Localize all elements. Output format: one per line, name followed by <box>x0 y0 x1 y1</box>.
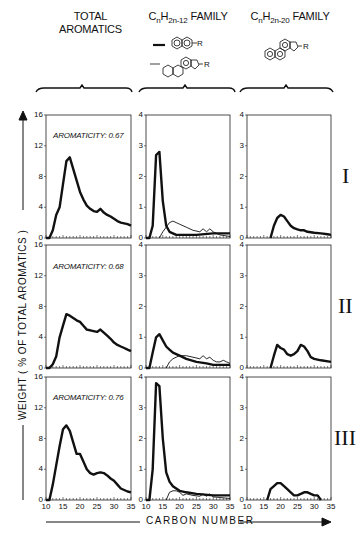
y-tick-label: 16 <box>33 372 43 381</box>
row-label-i: I <box>342 163 349 189</box>
x-tick-label: 30 <box>307 502 321 511</box>
y-tick-label: 3 <box>234 141 244 150</box>
y-tick-label: 2 <box>234 172 244 181</box>
y-tick-label: 2 <box>234 434 244 443</box>
y-tick-label: 2 <box>133 172 143 181</box>
x-tick-label: 25 <box>189 502 203 511</box>
series-line <box>46 157 131 238</box>
series-line <box>146 383 230 500</box>
x-tick-label: 20 <box>274 502 288 511</box>
y-tick-label: 8 <box>33 172 43 181</box>
y-tick-label: 4 <box>234 110 244 119</box>
x-tick-label: 15 <box>257 502 271 511</box>
y-tick-label: 3 <box>234 271 244 280</box>
x-tick-label: 10 <box>39 502 53 511</box>
y-tick-label: 2 <box>234 302 244 311</box>
y-tick-label: 16 <box>33 110 43 119</box>
series-line <box>146 334 230 368</box>
y-tick-label: 2 <box>133 302 143 311</box>
column-braces <box>36 85 333 92</box>
x-tick-label: 20 <box>173 502 187 511</box>
svg-text:R: R <box>303 42 309 51</box>
y-tick-label: 4 <box>234 372 244 381</box>
y-tick-label: 0 <box>133 363 143 372</box>
panel-iii-col3 <box>245 377 331 500</box>
y-tick-label: 4 <box>33 332 43 341</box>
y-tick-label: 1 <box>234 202 244 211</box>
series-line <box>46 425 131 500</box>
y-tick-label: 8 <box>33 302 43 311</box>
y-tick-label: 4 <box>234 240 244 249</box>
row-label-ii: II <box>338 293 353 319</box>
y-tick-label: 0 <box>234 363 244 372</box>
y-tick-label: 4 <box>133 240 143 249</box>
y-tick-label: 12 <box>33 141 43 150</box>
y-tick-label: 4 <box>133 372 143 381</box>
svg-text:R: R <box>197 39 203 48</box>
x-tick-label: 15 <box>156 502 170 511</box>
cyclopenta-phenanthrene-structure-icon: R <box>265 39 309 60</box>
y-tick-label: 1 <box>234 332 244 341</box>
y-tick-label: 1 <box>234 464 244 473</box>
y-tick-label: 1 <box>133 464 143 473</box>
x-tick-label: 30 <box>206 502 220 511</box>
x-tick-label: 25 <box>90 502 104 511</box>
tetracyclic-structure-icon: R <box>150 57 210 77</box>
y-tick-label: 3 <box>133 141 143 150</box>
y-tick-label: 4 <box>33 202 43 211</box>
x-tick-label: 10 <box>240 502 254 511</box>
series-line <box>271 345 332 368</box>
series-line <box>46 314 131 368</box>
x-tick-label: 30 <box>107 502 121 511</box>
panel-i-col2 <box>144 115 230 238</box>
series-line <box>146 152 230 238</box>
series-line <box>267 483 321 500</box>
y-tick-label: 4 <box>33 464 43 473</box>
series-line <box>271 215 332 238</box>
aromaticity-annotation-ii: AROMATICITY: 0.68 <box>53 262 123 271</box>
panel-ii-col3 <box>245 245 331 368</box>
x-tick-label: 20 <box>73 502 87 511</box>
row-label-iii: III <box>334 425 356 451</box>
y-tick-label: 1 <box>133 202 143 211</box>
y-tick-label: 4 <box>133 110 143 119</box>
x-axis-label: CARBON NUMBER <box>146 515 254 526</box>
y-tick-label: 3 <box>234 403 244 412</box>
x-tick-label: 10 <box>139 502 153 511</box>
y-tick-label: 16 <box>33 240 43 249</box>
svg-text:R: R <box>204 60 210 69</box>
aromaticity-annotation-iii: AROMATICITY: 0.76 <box>53 393 123 402</box>
panel-ii-col2 <box>144 245 230 368</box>
y-tick-label: 12 <box>33 403 43 412</box>
y-tick-label: 2 <box>133 434 143 443</box>
y-tick-label: 3 <box>133 403 143 412</box>
x-tick-label: 15 <box>56 502 70 511</box>
x-tick-label: 25 <box>290 502 304 511</box>
y-tick-label: 0 <box>33 363 43 372</box>
panel-i-col3 <box>245 115 331 238</box>
y-axis-label: WEIGHT ( % OF TOTAL AROMATICS ) <box>17 230 28 420</box>
y-tick-label: 3 <box>133 271 143 280</box>
x-tick-label: 35 <box>324 502 338 511</box>
naphthalene-structure-icon: R <box>153 37 203 49</box>
aromaticity-annotation-i: AROMATICITY: 0.67 <box>53 131 123 140</box>
y-tick-label: 1 <box>133 332 143 341</box>
y-tick-label: 12 <box>33 271 43 280</box>
chart-canvas: R R R <box>0 0 364 546</box>
y-tick-label: 8 <box>33 434 43 443</box>
panel-iii-col2 <box>144 377 230 500</box>
